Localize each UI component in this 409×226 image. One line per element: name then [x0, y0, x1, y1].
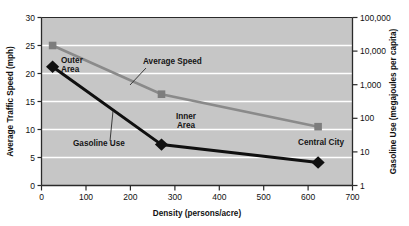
ytick-label-25: 25 — [26, 41, 36, 51]
ytick-label-5: 5 — [30, 153, 35, 163]
xtick-label-600: 600 — [301, 192, 315, 202]
ytick-label-20: 20 — [26, 69, 36, 79]
ytick-label-0: 0 — [30, 181, 35, 191]
y-axis-title: Average Traffic Speed (mph) — [6, 46, 15, 157]
average-speed-marker-outer-area — [49, 42, 57, 50]
ytick-label-10: 10 — [26, 125, 36, 135]
annotation-inner-area-line1: Inner — [176, 112, 197, 121]
y2tick-label-1000: 1,000 — [360, 80, 382, 90]
ytick-label-15: 15 — [26, 97, 36, 107]
average-speed-marker-inner-area — [158, 90, 166, 98]
xtick-label-300: 300 — [168, 192, 182, 202]
y2tick-label-10000: 10,000 — [360, 46, 386, 56]
annotation-outer-area-line2: Area — [61, 65, 80, 74]
traffic-speed-gasoline-use-chart: 0 5 10 15 20 25 30 1 10 100 1,000 10,000… — [0, 0, 409, 226]
average-speed-marker-central-city — [314, 123, 322, 131]
annotation-gasoline-use-label: Gasoline Use — [73, 139, 125, 148]
y2tick-label-10: 10 — [360, 147, 370, 157]
annotation-inner-area-line2: Area — [177, 121, 196, 130]
annotation-inner-area: Inner Area — [176, 112, 197, 130]
y2-axis-title: Gasoline Use (megajoules per capita) — [389, 28, 398, 174]
xtick-label-100: 100 — [79, 192, 93, 202]
y2tick-label-100: 100 — [360, 113, 374, 123]
chart-container: 0 5 10 15 20 25 30 1 10 100 1,000 10,000… — [0, 0, 409, 226]
y2tick-label-1: 1 — [360, 181, 365, 191]
xtick-label-500: 500 — [257, 192, 271, 202]
xtick-label-0: 0 — [39, 192, 44, 202]
annotation-central-city-label: Central City — [298, 138, 344, 147]
xtick-label-700: 700 — [345, 192, 359, 202]
xtick-label-200: 200 — [123, 192, 137, 202]
x-axis-title: Density (persons/acre) — [153, 209, 242, 218]
ytick-label-30: 30 — [26, 13, 36, 23]
y2tick-label-100000: 100,000 — [360, 13, 391, 23]
annotation-central-city: Central City — [298, 138, 344, 147]
annotation-outer-area-line1: Outer — [61, 56, 84, 65]
xtick-label-400: 400 — [212, 192, 226, 202]
annotation-average-speed-label: Average Speed — [143, 57, 202, 66]
